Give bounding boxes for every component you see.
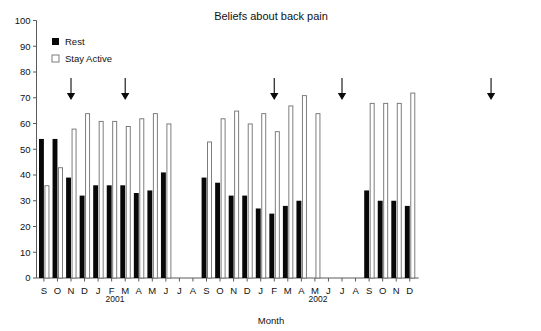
bar-stay-active [86, 114, 90, 278]
x-tick-label: J [177, 285, 182, 296]
bar-stay-active [113, 121, 117, 278]
x-tick-label: J [163, 285, 168, 296]
x-tick-label: O [216, 285, 223, 296]
bar-stay-active [235, 111, 239, 278]
x-tick-label: A [352, 285, 359, 296]
bar-stay-active [302, 96, 306, 278]
x-tick-label: F [271, 285, 277, 296]
bar-rest [229, 196, 234, 278]
y-tick-label: 50 [20, 144, 31, 155]
y-tick-label: 90 [20, 41, 31, 52]
bar-rest [120, 185, 125, 278]
bar-stay-active [167, 124, 171, 278]
bar-rest [296, 201, 301, 278]
down-arrow-icon [488, 78, 494, 99]
bar-rest [378, 201, 383, 278]
x-tick-label: J [96, 285, 101, 296]
bar-rest [283, 206, 288, 278]
bar-stay-active [397, 103, 401, 278]
bar-stay-active [262, 114, 266, 278]
bar-stay-active [248, 124, 252, 278]
down-arrow-icon [271, 78, 277, 99]
y-tick-label: 70 [20, 92, 31, 103]
bar-rest [269, 214, 274, 278]
bar-rest [405, 206, 410, 278]
x-tick-labels: SONDJFMAMJJASONDJFMAMJJASOND [41, 285, 414, 296]
bar-stay-active [289, 106, 293, 278]
x-axis-title: Month [258, 315, 284, 326]
y-tick-label: 60 [20, 118, 31, 129]
bars-layer [39, 93, 415, 278]
bar-rest [391, 201, 396, 278]
bar-rest [147, 190, 152, 278]
x-tick-label: S [203, 285, 209, 296]
bar-rest [53, 139, 58, 278]
x-tick-label: S [41, 285, 47, 296]
bar-stay-active [411, 93, 415, 278]
bar-rest [256, 208, 261, 278]
legend-label-stay-active: Stay Active [65, 53, 112, 64]
legend-label-rest: Rest [65, 36, 85, 47]
chart-legend: Rest Stay Active [52, 36, 112, 64]
x-tick-label: D [406, 285, 413, 296]
legend-marker-rest [52, 38, 59, 45]
chart-figure: Beliefs about back pain Rest Stay Active… [0, 0, 541, 331]
x-tick-label: D [81, 285, 88, 296]
bar-rest [107, 185, 112, 278]
x-tick-label: A [190, 285, 197, 296]
x-tick-label: N [393, 285, 400, 296]
y-tick-label: 0 [25, 272, 30, 283]
y-tick-label: 30 [20, 195, 31, 206]
y-axis: 0102030405060708090100 [15, 15, 37, 284]
bar-rest [66, 178, 71, 278]
bar-rest [93, 185, 98, 278]
bar-stay-active [99, 121, 103, 278]
bar-stay-active [153, 114, 157, 278]
x-tick-label: J [340, 285, 345, 296]
x-tick-label: N [230, 285, 237, 296]
bar-stay-active [370, 103, 374, 278]
x-tick-label: S [366, 285, 372, 296]
x-tick-label: O [54, 285, 61, 296]
bar-rest [242, 196, 247, 278]
bar-stay-active [221, 119, 225, 278]
bar-rest [39, 139, 44, 278]
bar-rest [202, 178, 207, 278]
group-label-2002: 2002 [309, 294, 328, 304]
bar-rest [215, 183, 220, 278]
x-tick-label: J [258, 285, 263, 296]
down-arrow-icon [339, 78, 345, 99]
group-label-2001: 2001 [106, 294, 125, 304]
x-tick-label: N [68, 285, 75, 296]
bar-rest [80, 196, 85, 278]
bar-stay-active [140, 119, 144, 278]
x-tick-label: A [136, 285, 143, 296]
bar-stay-active [316, 114, 320, 278]
annotation-arrows [68, 78, 494, 99]
bar-stay-active [45, 186, 49, 278]
bar-rest [161, 172, 166, 278]
x-tick-label: O [379, 285, 386, 296]
x-tick-label: M [284, 285, 292, 296]
y-tick-label: 10 [20, 247, 31, 258]
bar-stay-active [126, 127, 130, 278]
bar-rest [134, 193, 139, 278]
y-tick-label: 20 [20, 221, 31, 232]
x-axis [37, 278, 419, 282]
chart-title: Beliefs about back pain [214, 10, 328, 22]
down-arrow-icon [68, 78, 74, 99]
bar-rest [364, 190, 369, 278]
bar-stay-active [384, 103, 388, 278]
bar-stay-active [59, 168, 63, 278]
bar-stay-active [208, 142, 212, 278]
bar-stay-active [72, 129, 76, 278]
x-tick-label: A [298, 285, 305, 296]
y-tick-label: 80 [20, 66, 31, 77]
legend-marker-stay-active [52, 55, 59, 62]
bar-chart-canvas: Beliefs about back pain Rest Stay Active… [0, 0, 541, 331]
down-arrow-icon [122, 78, 128, 99]
x-tick-label: M [148, 285, 156, 296]
y-tick-label: 40 [20, 169, 31, 180]
bar-stay-active [275, 132, 279, 278]
y-tick-label: 100 [15, 15, 31, 26]
